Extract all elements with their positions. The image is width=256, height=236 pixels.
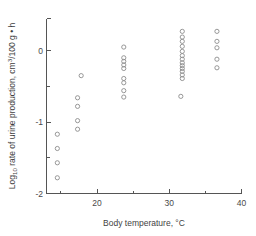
data-point <box>180 49 184 53</box>
data-point <box>215 39 219 43</box>
data-point <box>215 66 219 70</box>
x-axis-title: Body temperature, °C <box>103 218 185 228</box>
x-axis-tick-labels: 203040 <box>92 198 246 208</box>
data-point <box>122 89 126 93</box>
data-points-group <box>55 29 219 180</box>
data-point <box>180 35 184 39</box>
data-point <box>55 176 59 180</box>
data-point <box>122 95 126 99</box>
y-axis-ticks <box>47 19 52 194</box>
data-point <box>55 161 59 165</box>
data-point <box>122 81 126 85</box>
x-tick-label: 20 <box>92 198 102 208</box>
y-tick-label: -2 <box>35 189 43 199</box>
x-tick-label: 30 <box>165 198 175 208</box>
data-point <box>180 44 184 48</box>
scatter-plot-figure: 0-1-2 203040 Body temperature, °C Log10 … <box>0 0 256 236</box>
data-point <box>215 46 219 50</box>
x-tick-label: 40 <box>237 198 247 208</box>
data-point <box>75 119 79 123</box>
y-tick-label: 0 <box>38 46 43 56</box>
data-point <box>122 45 126 49</box>
y-tick-label: -1 <box>35 117 43 127</box>
data-point <box>55 146 59 150</box>
y-axis-title: Log10 rate of urine production, cm3/100 … <box>6 23 18 190</box>
data-point <box>79 74 83 78</box>
plot-canvas: 0-1-2 203040 Body temperature, °C Log10 … <box>0 0 256 236</box>
data-point <box>180 29 184 33</box>
data-point <box>179 94 183 98</box>
data-point <box>75 104 79 108</box>
y-axis-tick-labels: 0-1-2 <box>35 46 43 199</box>
data-point <box>215 29 219 33</box>
data-point <box>75 96 79 100</box>
data-point <box>75 127 79 131</box>
data-point <box>55 132 59 136</box>
data-point <box>122 76 126 80</box>
data-point <box>215 57 219 61</box>
x-axis-ticks <box>61 189 242 194</box>
data-point <box>180 39 184 43</box>
